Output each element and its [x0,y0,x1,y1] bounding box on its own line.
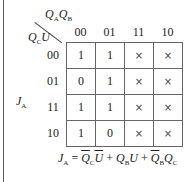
kmap-cell: 0 [67,69,96,95]
kmap-row: 1 0 × × [67,121,183,147]
kmap-cell: 1 [67,43,96,69]
kmap-row: 0 1 × × [67,69,183,95]
kmap-cell-dont-care: × [154,95,183,121]
column-variables-label: QAQB [45,7,72,23]
column-header: 00 [66,25,95,40]
row-header: 01 [42,74,64,89]
column-header: 10 [153,25,182,40]
kmap-row: 1 1 × × [67,95,183,121]
column-header: 01 [95,25,124,40]
boolean-equation: JA = QCU + QBU + QBQC [58,151,177,167]
kmap-cell: 1 [67,121,96,147]
kmap-row: 1 1 × × [67,43,183,69]
row-header: 11 [42,100,64,115]
kmap-cell-dont-care: × [125,43,154,69]
kmap-cell-dont-care: × [125,69,154,95]
kmap-cell-dont-care: × [154,69,183,95]
kmap-cell-dont-care: × [154,43,183,69]
kmap-cell-dont-care: × [125,95,154,121]
kmap-cell: 1 [67,95,96,121]
kmap-cell: 1 [96,95,125,121]
output-label: JA [16,94,26,110]
row-variables-label: QCU [28,30,50,46]
kmap-cell-dont-care: × [125,121,154,147]
karnaugh-map-grid: 1 1 × × 0 1 × × 1 1 × × 1 0 × × [66,42,183,147]
row-header: 00 [42,48,64,63]
kmap-cell: 0 [96,121,125,147]
kmap-cell: 1 [96,69,125,95]
row-header: 10 [42,126,64,141]
kmap-cell: 1 [96,43,125,69]
kmap-cell-dont-care: × [154,121,183,147]
column-header: 11 [124,25,153,40]
